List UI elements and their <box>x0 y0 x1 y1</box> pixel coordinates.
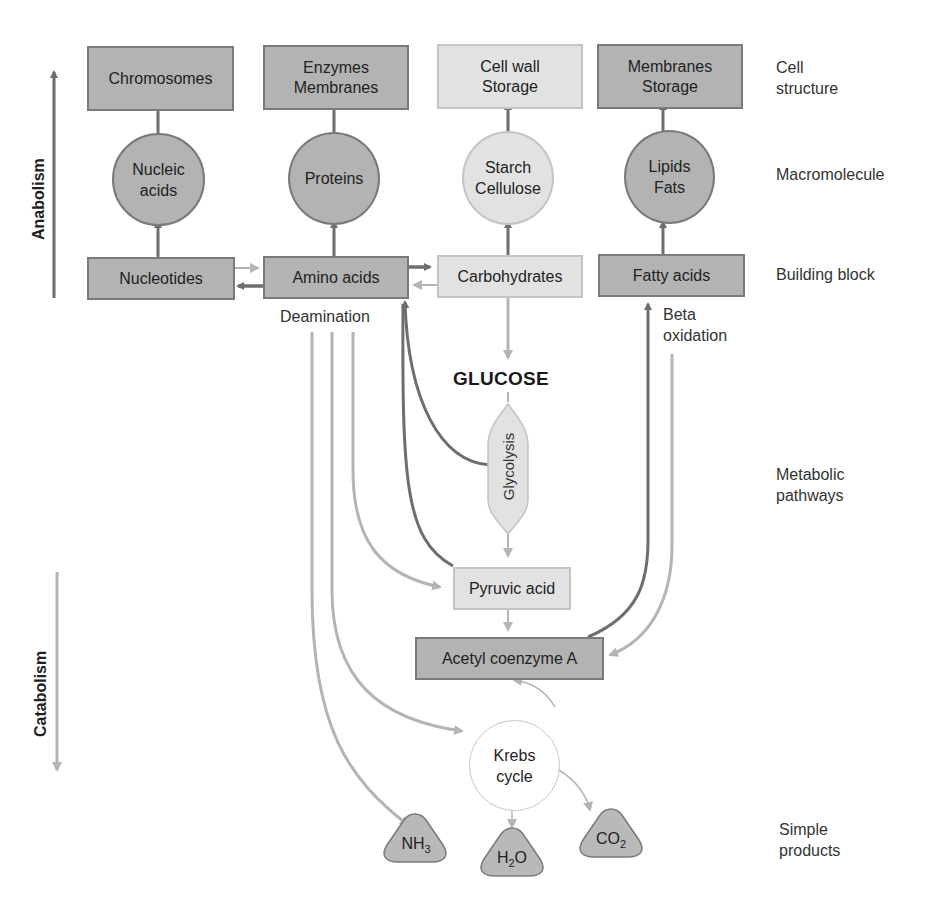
glucose-label: GLUCOSE <box>453 368 549 390</box>
node-lipids-fats: Lipids Fats <box>624 130 715 224</box>
level-simple-products: Simple products <box>779 819 840 861</box>
node-enzymes-membranes: Enzymes Membranes <box>263 45 409 110</box>
node-membranes-storage: Membranes Storage <box>597 44 743 109</box>
level-macromolecule: Macromolecule <box>776 164 884 185</box>
node-proteins: Proteins <box>288 132 380 225</box>
node-nucleic-acids: Nucleic acids <box>112 133 205 226</box>
product-h2o: H2O <box>488 849 536 869</box>
node-cell-wall-storage: Cell wall Storage <box>437 44 583 109</box>
product-nh3: NH3 <box>392 835 440 855</box>
deamination-label: Deamination <box>280 306 370 327</box>
beta-oxidation-label: Beta oxidation <box>663 304 727 346</box>
level-building-block: Building block <box>776 264 875 285</box>
product-co2: CO2 <box>587 830 635 850</box>
level-metabolic-pathways: Metabolic pathways <box>776 464 844 506</box>
node-amino-acids: Amino acids <box>263 256 409 299</box>
node-nucleotides: Nucleotides <box>87 257 235 300</box>
level-cell-structure: Cell structure <box>776 57 838 99</box>
node-krebs-cycle: Krebs cycle <box>469 720 560 811</box>
node-pyruvic-acid: Pyruvic acid <box>453 567 571 610</box>
node-fatty-acids: Fatty acids <box>598 254 745 297</box>
glycolysis-label: Glycolysis <box>500 427 517 507</box>
node-starch-cellulose: Starch Cellulose <box>462 131 554 225</box>
node-acetyl-coenzyme-a: Acetyl coenzyme A <box>415 637 604 680</box>
catabolism-label: Catabolism <box>32 651 50 737</box>
node-chromosomes: Chromosomes <box>87 46 234 111</box>
anabolism-label: Anabolism <box>30 158 48 240</box>
node-carbohydrates: Carbohydrates <box>437 255 583 298</box>
